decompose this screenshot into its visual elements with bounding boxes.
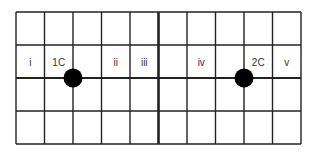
cell-label: iii	[141, 56, 148, 67]
cell-label: i	[29, 56, 31, 67]
grid-diagram	[0, 0, 314, 153]
cell-label: ii	[114, 56, 118, 67]
dot-marker-1c	[64, 69, 83, 88]
cell-label: iv	[198, 56, 205, 67]
dot-marker-2c	[235, 69, 254, 88]
cell-label: 1C	[52, 56, 65, 67]
cell-label: v	[284, 56, 289, 67]
cell-label: 2C	[252, 56, 265, 67]
